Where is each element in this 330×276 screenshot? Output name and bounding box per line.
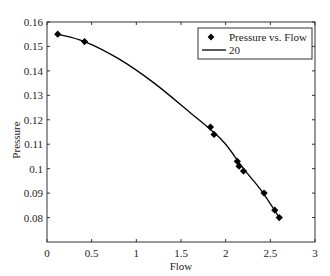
y-tick-label: 0.11 — [24, 138, 43, 150]
y-tick-label: 0.13 — [24, 89, 44, 101]
data-point-diamond — [240, 168, 247, 175]
y-tick-label: 0.16 — [24, 16, 44, 28]
y-tick-label: 0.15 — [24, 40, 44, 52]
legend-label-line: 20 — [229, 44, 241, 56]
x-tick-label: 2.5 — [263, 247, 277, 259]
y-tick-label: 0.08 — [24, 212, 44, 224]
x-tick-label: 1 — [134, 247, 140, 259]
data-point-diamond — [54, 31, 61, 38]
pressure-flow-chart: 00.511.522.530.080.090.10.110.120.130.14… — [0, 0, 330, 276]
data-point-diamond — [81, 38, 88, 45]
y-tick-label: 0.1 — [29, 163, 43, 175]
legend: Pressure vs. Flow20 — [198, 28, 312, 59]
y-tick-label: 0.12 — [24, 114, 43, 126]
data-point-diamond — [210, 131, 217, 138]
data-point-diamond — [276, 214, 283, 221]
legend-label-scatter: Pressure vs. Flow — [229, 31, 307, 43]
x-tick-label: 0 — [44, 247, 50, 259]
x-tick-label: 3 — [312, 247, 318, 259]
fit-line — [58, 34, 280, 217]
y-tick-label: 0.09 — [24, 187, 44, 199]
x-axis-label: Flow — [170, 260, 193, 272]
data-point-diamond — [207, 124, 214, 131]
x-tick-label: 2 — [223, 247, 229, 259]
x-tick-label: 1.5 — [174, 247, 188, 259]
y-axis-label: Pressure — [10, 121, 22, 158]
x-tick-label: 0.5 — [85, 247, 99, 259]
y-tick-label: 0.14 — [24, 65, 44, 77]
